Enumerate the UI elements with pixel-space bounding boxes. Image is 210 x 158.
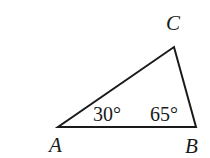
vertex-label-a: A <box>47 133 62 157</box>
vertex-label-b: B <box>185 134 198 158</box>
angle-label-a: 30° <box>93 103 121 125</box>
vertex-label-c: C <box>166 11 181 35</box>
angle-label-b: 65° <box>150 103 178 125</box>
triangle-diagram: C A B 30° 65° <box>0 0 210 158</box>
